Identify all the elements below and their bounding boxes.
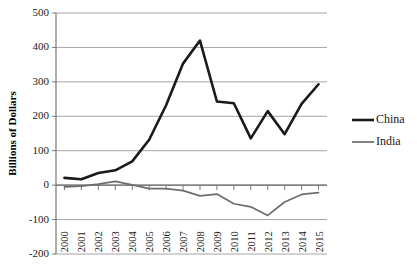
y-tick-label: 0 xyxy=(44,178,50,190)
y-tick-label: 500 xyxy=(33,6,50,18)
series-group xyxy=(64,41,318,216)
x-tick-label: 2005 xyxy=(144,231,155,252)
x-tick-label: 2015 xyxy=(314,231,325,252)
y-tick-label: 400 xyxy=(33,40,50,52)
x-tick-label: 2006 xyxy=(161,231,172,252)
x-tick-label: 2014 xyxy=(297,230,308,252)
chart-canvas: 5004003002001000-100-2002000200120022003… xyxy=(0,0,417,271)
x-tick-label: 2002 xyxy=(93,231,104,252)
x-tick-label: 2008 xyxy=(195,231,206,252)
y-tick-label: 200 xyxy=(33,109,50,121)
x-tick-label: 2004 xyxy=(127,230,138,252)
x-tick-label: 2003 xyxy=(110,231,121,252)
y-tick-label: 100 xyxy=(33,144,50,156)
x-tick-label: 2001 xyxy=(76,231,87,252)
x-tick-label: 2000 xyxy=(59,231,70,252)
y-tick-label: -200 xyxy=(29,247,50,259)
y-tick-label: -100 xyxy=(29,213,50,225)
y-axis-title: Billions of Dollars xyxy=(6,91,18,176)
x-axis-labels-group: 2000200120022003200420052006200720082009… xyxy=(59,185,324,252)
series-line-india xyxy=(64,181,318,215)
x-tick-label: 2012 xyxy=(263,231,274,252)
series-line-china xyxy=(64,41,318,180)
x-tick-label: 2011 xyxy=(246,231,257,252)
legend: ChinaIndia xyxy=(352,112,405,148)
legend-label-india: India xyxy=(376,134,401,148)
line-chart: 5004003002001000-100-2002000200120022003… xyxy=(0,0,417,271)
y-tick-label: 300 xyxy=(33,75,50,87)
x-tick-label: 2009 xyxy=(212,231,223,252)
x-tick-label: 2010 xyxy=(229,231,240,252)
x-tick-label: 2013 xyxy=(280,231,291,252)
legend-label-china: China xyxy=(376,112,405,126)
x-tick-label: 2007 xyxy=(178,231,189,252)
